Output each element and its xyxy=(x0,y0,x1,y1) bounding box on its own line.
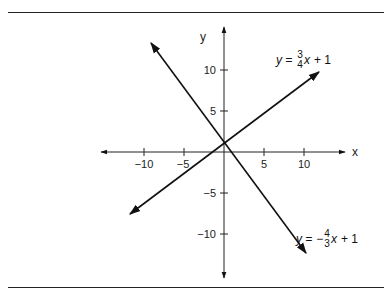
eq1-prefix: y = xyxy=(276,53,292,67)
coordinate-plot: −10 −5 5 10 10 5 −5 −10 x y xyxy=(0,0,384,293)
x-tick-label: −10 xyxy=(135,158,154,170)
eq2-sign: − xyxy=(316,232,323,246)
eq2-var: x xyxy=(331,232,337,246)
y-tick-label: −5 xyxy=(203,187,216,199)
eq1-var: x xyxy=(304,53,310,67)
eq2-denominator: 3 xyxy=(324,239,330,249)
eq2-fraction: 4 3 xyxy=(324,229,330,249)
x-tick-label: −5 xyxy=(177,158,190,170)
equation-label-negative: y = − 4 3 x + 1 xyxy=(296,229,358,249)
x-axis-label: x xyxy=(352,145,358,159)
eq2-prefix: y = xyxy=(296,232,312,246)
line-negative-slope xyxy=(151,43,306,253)
eq1-denominator: 4 xyxy=(297,60,303,70)
x-tick-label: 5 xyxy=(261,158,267,170)
y-axis-label: y xyxy=(200,30,206,44)
eq1-fraction: 3 4 xyxy=(297,50,303,70)
y-tick-label: 5 xyxy=(210,105,216,117)
y-tick-label: 10 xyxy=(204,64,216,76)
y-tick-label: −10 xyxy=(197,228,216,240)
equation-label-positive: y = 3 4 x + 1 xyxy=(276,50,331,70)
eq1-suffix: + 1 xyxy=(314,53,331,67)
eq2-suffix: + 1 xyxy=(341,232,358,246)
x-tick-label: 10 xyxy=(298,158,310,170)
